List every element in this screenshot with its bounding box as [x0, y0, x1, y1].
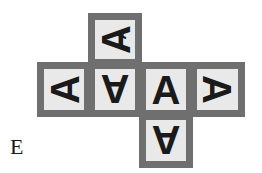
net-cell-bottom: A	[139, 113, 193, 168]
net-cell-middle-center-left: A	[88, 62, 142, 117]
letter-a-top-small: A	[107, 21, 133, 47]
letter-a-middle-left: A	[44, 70, 85, 110]
letter-a-middle-center-right: A	[146, 69, 186, 110]
letter-a-middle-center-left: A	[95, 69, 135, 110]
letter-a-bottom: A	[146, 120, 186, 161]
net-cell-middle-right: A	[190, 62, 245, 117]
net-cell-top: A A	[88, 13, 142, 66]
net-cell-middle-center-right: A	[139, 62, 193, 117]
cube-net-diagram: A A A A A A A	[0, 0, 262, 173]
figure-label: E	[10, 136, 23, 158]
letter-a-middle-right: A	[197, 69, 238, 110]
net-cell-middle-left: A	[37, 62, 91, 117]
